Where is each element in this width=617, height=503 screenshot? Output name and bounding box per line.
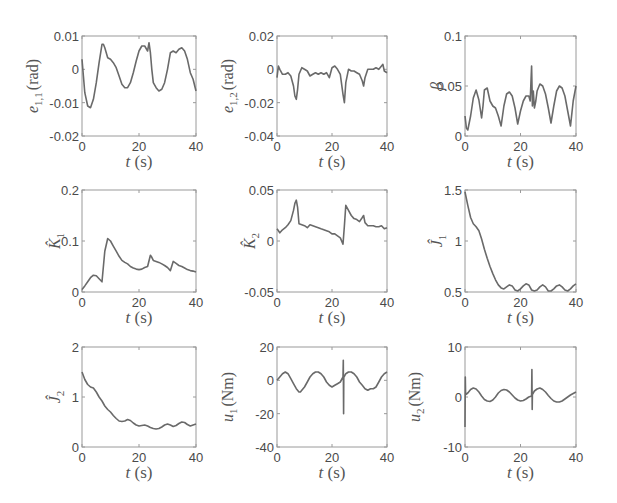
subplot-K1hat: 0204000.10.2t (s)K̂1 [45,183,203,327]
x-tick-label: 0 [273,295,280,310]
data-line-J1hat [465,192,576,291]
x-tick-label: 0 [273,139,280,154]
x-axis-label: t (s) [507,308,534,327]
y-axis-label: K̂2 [240,233,261,250]
axes-frame [82,190,196,292]
y-tick-label: -0.04 [244,129,274,144]
y-axis-label: e1,1(rad) [24,59,44,113]
y-tick-label: 0.2 [61,183,79,198]
x-axis-label: t (s) [319,152,346,171]
subplot-J2hat: 02040012t (s)Ĵ2 [45,340,203,482]
y-tick-label: 0.01 [54,29,79,44]
y-tick-label: 1 [72,390,79,405]
y-axis-label: u2(Nm) [406,372,426,422]
y-tick-label: 0 [72,285,79,300]
y-tick-label: -20 [255,407,274,422]
y-tick-label: -40 [255,440,274,455]
y-axis-label: e1,2(rad) [219,59,239,113]
subplot-u2: 02040-10010t (s)u2(Nm) [406,340,583,482]
y-tick-label: 0 [267,373,274,388]
x-axis-label: t (s) [319,463,346,482]
x-axis-label: t (s) [507,463,534,482]
x-tick-label: 40 [569,450,583,465]
figure-canvas: 02040-0.02-0.0100.01t (s)e1,1(rad)02040-… [0,0,617,503]
x-tick-label: 0 [78,139,85,154]
data-line-u1 [277,360,387,413]
y-tick-label: 0 [267,62,274,77]
x-axis-label: t (s) [126,463,153,482]
x-tick-label: 40 [189,139,203,154]
x-tick-label: 0 [78,450,85,465]
data-line-e12 [277,64,387,102]
y-tick-label: -0.02 [244,96,274,111]
y-tick-label: 0.5 [444,285,462,300]
x-tick-label: 0 [461,139,468,154]
subplot-beta: 0204000.050.1t (s)β [428,29,583,171]
x-tick-label: 40 [189,295,203,310]
x-tick-label: 40 [189,450,203,465]
y-tick-label: 10 [448,340,462,355]
y-tick-label: 0 [72,440,79,455]
x-tick-label: 40 [569,295,583,310]
x-tick-label: 40 [380,450,394,465]
y-tick-label: -0.01 [49,96,79,111]
y-tick-label: 2 [72,340,79,355]
y-axis-label: β [428,82,446,91]
subplot-e12: 02040-0.04-0.0200.02t (s)e1,2(rad) [219,29,394,171]
data-line-e11 [82,43,196,108]
x-tick-label: 40 [380,139,394,154]
data-line-beta [465,66,576,130]
y-tick-label: 0.02 [249,29,274,44]
y-tick-label: 1 [455,234,462,249]
y-tick-label: -0.05 [244,285,274,300]
subplot-J1hat: 020400.511.5t (s)Ĵ1 [427,183,583,327]
axes-frame [277,347,387,447]
x-tick-label: 0 [461,295,468,310]
y-tick-label: 0 [72,62,79,77]
x-tick-label: 0 [273,450,280,465]
x-axis-label: t (s) [126,308,153,327]
data-line-u2 [465,370,576,428]
x-tick-label: 40 [569,139,583,154]
y-tick-label: 1.5 [444,183,462,198]
x-tick-label: 0 [461,450,468,465]
data-line-K2hat [277,200,387,244]
y-tick-label: 0 [455,129,462,144]
y-axis-label: K̂1 [45,233,66,250]
x-axis-label: t (s) [126,152,153,171]
y-tick-label: -10 [443,440,462,455]
axes-frame [277,190,387,292]
x-axis-label: t (s) [507,152,534,171]
subplot-u1: 02040-40-20020t (s)u1(Nm) [219,340,394,482]
x-axis-label: t (s) [319,308,346,327]
y-tick-label: 20 [260,340,274,355]
y-axis-label: Ĵ2 [45,391,66,404]
x-tick-label: 0 [78,295,85,310]
y-tick-label: 0.05 [249,183,274,198]
y-tick-label: 0 [455,390,462,405]
y-tick-label: -0.02 [49,129,79,144]
data-line-J2hat [82,372,196,429]
data-line-K1hat [82,239,196,290]
subplot-K2hat: 02040-0.0500.05t (s)K̂2 [240,183,394,327]
subplot-e11: 02040-0.02-0.0100.01t (s)e1,1(rad) [24,29,203,171]
y-tick-label: 0 [267,234,274,249]
y-axis-label: u1(Nm) [219,372,239,422]
x-tick-label: 40 [380,295,394,310]
y-axis-label: Ĵ1 [427,235,448,248]
y-tick-label: 0.1 [444,29,462,44]
